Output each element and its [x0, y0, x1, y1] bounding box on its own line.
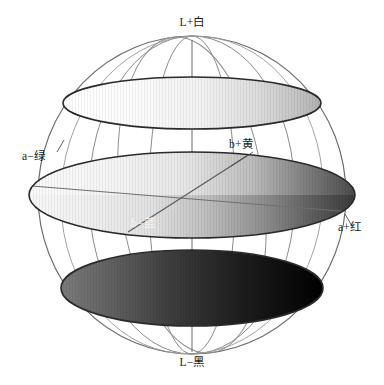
- upper-lightness-plane: [63, 77, 321, 129]
- diagram-canvas: L+白 L−黑 a−绿 a+红 b+黄 b−蓝: [0, 0, 384, 385]
- label-l-positive-white: L+白: [179, 15, 204, 28]
- equator-chroma-plane: [29, 152, 355, 238]
- label-b-negative-blue: b−蓝: [131, 217, 155, 229]
- label-a-negative-green: a−绿: [22, 149, 46, 162]
- label-b-positive-yellow: b+黄: [229, 137, 253, 150]
- lab-color-sphere-figure: L+白 L−黑 a−绿 a+红 b+黄 b−蓝: [0, 0, 384, 385]
- label-a-positive-red: a+红: [338, 221, 361, 233]
- lower-lightness-plane: [61, 250, 323, 326]
- label-l-negative-black: L−黑: [179, 356, 204, 368]
